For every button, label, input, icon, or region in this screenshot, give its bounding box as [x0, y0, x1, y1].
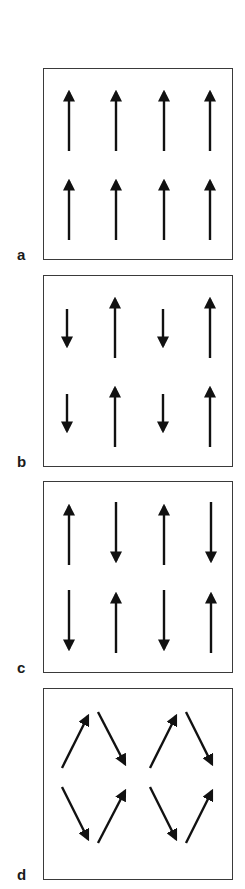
panel-d-arrows — [62, 712, 212, 843]
panel-b-arrows — [67, 299, 210, 447]
panel-a-arrows — [69, 92, 210, 240]
panel-c-arrows — [69, 502, 211, 653]
spin-arrows-diagram — [0, 0, 245, 889]
